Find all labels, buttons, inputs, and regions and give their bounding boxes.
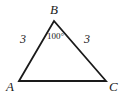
- angle-measure-label-b: 100°: [47, 32, 64, 41]
- triangle-shape: [0, 0, 122, 98]
- side-length-label-bc: 3: [84, 33, 90, 45]
- triangle-outline: [19, 21, 106, 81]
- vertex-label-c: C: [109, 80, 118, 93]
- vertex-label-a: A: [6, 80, 14, 93]
- geometry-figure: B A C 3 3 100°: [0, 0, 122, 98]
- side-length-label-ab: 3: [20, 33, 26, 45]
- vertex-label-b: B: [50, 3, 58, 16]
